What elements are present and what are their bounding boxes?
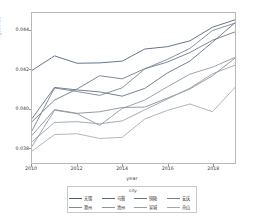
- legend-row: 无锡马鞍铜陵安庆: [68, 194, 198, 203]
- legend-row: 滁州池州宣城舟山: [68, 203, 198, 212]
- legend-item[interactable]: 铜陵: [133, 195, 166, 201]
- x-tick-mark: [213, 164, 214, 167]
- series-line: [32, 32, 235, 122]
- legend-entries: 无锡马鞍铜陵安庆滁州池州宣城舟山: [68, 194, 198, 212]
- chart-root: m_score1 0.0380.0400.0420.044 2010201220…: [0, 0, 264, 217]
- legend-label: 滁州: [84, 204, 92, 210]
- legend-item[interactable]: 池州: [101, 204, 134, 210]
- x-tick-label: 2010: [16, 166, 46, 171]
- legend-item[interactable]: 宣城: [133, 204, 166, 210]
- legend-label: 马鞍: [117, 195, 125, 201]
- y-tick-label: 0.038: [0, 146, 29, 151]
- legend-line-swatch: [134, 198, 147, 199]
- series-lines: [32, 13, 235, 163]
- x-tick-label: 2012: [62, 166, 92, 171]
- x-tick-mark: [122, 164, 123, 167]
- x-tick-label: 2018: [198, 166, 228, 171]
- x-tick-mark: [31, 164, 32, 167]
- x-axis-label: year: [0, 176, 264, 181]
- legend-line-swatch: [134, 207, 147, 208]
- y-tick-label: 0.040: [0, 106, 29, 111]
- legend-item[interactable]: 安庆: [166, 195, 199, 201]
- legend-line-swatch: [69, 198, 82, 199]
- legend-item[interactable]: 舟山: [166, 204, 199, 210]
- legend-item[interactable]: 滁州: [68, 204, 101, 210]
- x-tick-mark: [168, 164, 169, 167]
- legend-line-swatch: [167, 198, 180, 199]
- series-line: [32, 20, 235, 71]
- y-tick-label: 0.042: [0, 67, 29, 72]
- series-line: [32, 57, 235, 146]
- series-line: [32, 65, 235, 142]
- x-tick-label: 2014: [107, 166, 137, 171]
- legend-label: 铜陵: [149, 195, 157, 201]
- legend-label: 舟山: [182, 204, 190, 210]
- x-tick-label: 2016: [153, 166, 183, 171]
- series-line: [32, 23, 235, 131]
- legend: city 无锡马鞍铜陵安庆滁州池州宣城舟山: [67, 186, 197, 213]
- legend-item[interactable]: 无锡: [68, 195, 101, 201]
- legend-label: 宣城: [149, 204, 157, 210]
- legend-line-swatch: [167, 207, 180, 208]
- x-tick-mark: [77, 164, 78, 167]
- y-tick-label: 0.044: [0, 27, 29, 32]
- legend-label: 安庆: [182, 195, 190, 201]
- legend-item[interactable]: 马鞍: [101, 195, 134, 201]
- legend-line-swatch: [69, 207, 82, 208]
- series-line: [32, 87, 235, 151]
- plot-area: [31, 12, 236, 164]
- legend-label: 池州: [117, 204, 125, 210]
- legend-label: 无锡: [84, 195, 92, 201]
- legend-title: city: [68, 188, 198, 193]
- legend-line-swatch: [102, 207, 115, 208]
- legend-line-swatch: [102, 198, 115, 199]
